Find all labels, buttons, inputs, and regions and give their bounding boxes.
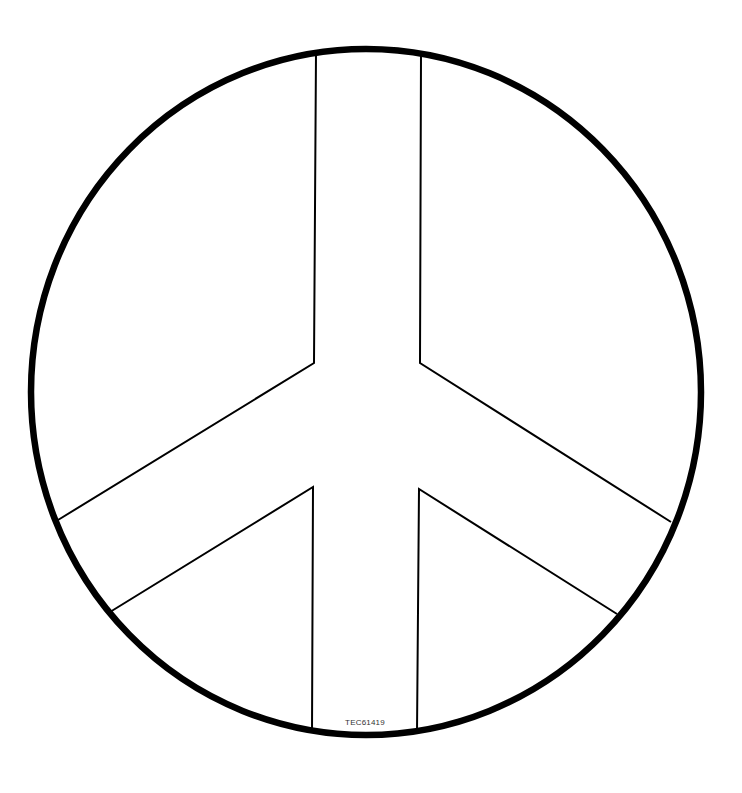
outer-circle	[31, 49, 701, 735]
product-code-label: TEC61419	[315, 718, 415, 727]
peace-sign-graphic	[0, 0, 742, 793]
